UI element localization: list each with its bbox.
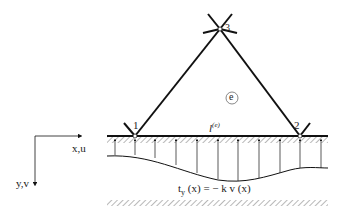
traction-arrows (115, 140, 321, 181)
edge-length-sup: (e) (212, 121, 220, 129)
node-3 (218, 27, 222, 31)
ground-hatch (107, 200, 328, 206)
edge-2-3 (220, 29, 300, 136)
traction-formula: ty (x) = − k v (x) (178, 183, 251, 197)
node-2 (298, 134, 302, 138)
node-1-label: 1 (133, 120, 139, 131)
edge-1-3 (135, 29, 220, 136)
x-axis-label: x,u (72, 143, 86, 154)
traction-rest: (x) = − k v (x) (185, 182, 251, 194)
foundation-diagram (0, 0, 343, 219)
node-3-label: 3 (225, 23, 230, 33)
traction-curve (107, 156, 328, 181)
foundation-hatch (107, 137, 328, 143)
element-label: e (229, 92, 233, 102)
y-axis-label: y,v (16, 178, 29, 189)
node-1 (133, 134, 137, 138)
edge-length-label: l(e) (209, 122, 220, 134)
node-2-label: 2 (294, 120, 300, 131)
